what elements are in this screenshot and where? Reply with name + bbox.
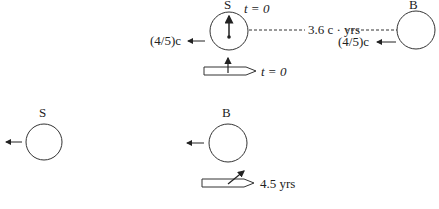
ship-s-label: S: [39, 105, 46, 120]
rocket-icon: [204, 67, 256, 75]
ship-s-velocity-label: (4/5)c: [150, 33, 181, 48]
ship-s-bottom: S: [6, 105, 62, 160]
ship-b-circle: [209, 124, 247, 162]
ship-s-label: S: [224, 0, 231, 12]
ship-b-bottom: B: [187, 105, 247, 162]
ship-b-circle: [397, 11, 435, 49]
clock-center-dot: [227, 35, 231, 39]
bottom-scene: S B 4.5 yrs: [6, 105, 295, 191]
top-scene: S t = 0 (4/5)c 3.6 c · yrs B (4/5)c t = …: [150, 0, 435, 79]
ship-b-label: B: [409, 0, 418, 12]
rocket-bottom: 4.5 yrs: [202, 171, 295, 191]
ship-s-time-label: t = 0: [244, 1, 270, 16]
rocket-time-label: t = 0: [261, 64, 287, 79]
rocket-time-label: 4.5 yrs: [260, 176, 295, 191]
rocket-top: t = 0: [204, 58, 287, 79]
relativity-diagram: S t = 0 (4/5)c 3.6 c · yrs B (4/5)c t = …: [0, 0, 439, 209]
separation: 3.6 c · yrs: [249, 22, 397, 37]
rocket-clock-hand-icon: [228, 171, 244, 184]
rocket-icon: [202, 179, 254, 187]
ship-b-label: B: [222, 105, 231, 120]
ship-s-circle: [26, 124, 62, 160]
ship-s-top: S t = 0 (4/5)c: [150, 0, 270, 50]
ship-b-velocity-label: (4/5)c: [338, 34, 369, 49]
